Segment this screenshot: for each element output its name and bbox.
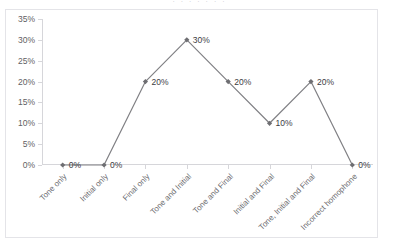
y-axis-tick-label: 20% [18, 77, 35, 87]
y-axis-tick-mark [38, 165, 42, 166]
data-point-label: 20% [317, 77, 334, 87]
data-point-marker [101, 162, 106, 167]
x-axis-tick-mark [187, 165, 188, 169]
chart-container: 35%30%25%20%15%10%5%0% 0%0%20%30%20%10%2… [5, 9, 378, 238]
data-point-label: 0% [358, 160, 370, 170]
x-axis-category-label-text: Tone and Final [191, 172, 234, 215]
data-point-label: 10% [276, 118, 293, 128]
x-axis-category-label-text: Initial only [79, 172, 111, 204]
data-point-label: 20% [234, 77, 251, 87]
data-point-label: 20% [151, 77, 168, 87]
series-markers [60, 37, 355, 167]
y-axis-tick-label: 25% [18, 56, 35, 66]
y-axis-tick-label: 10% [18, 118, 35, 128]
data-point-label: 30% [193, 35, 210, 45]
x-axis-tick-mark [270, 165, 271, 169]
y-axis-tick-label: 15% [18, 97, 35, 107]
y-axis-tick-label: 30% [18, 35, 35, 45]
x-axis-tick-mark [145, 165, 146, 169]
plot-area: 35%30%25%20%15%10%5%0% 0%0%20%30%20%10%2… [42, 19, 373, 165]
x-axis-tick-mark [228, 165, 229, 169]
cut-off-title-sliver: · · · · · · · [0, 0, 399, 8]
x-axis-category-label-text: Initial and Final [232, 172, 276, 216]
data-point-label: 0% [69, 160, 81, 170]
y-axis-tick-label: 0% [23, 160, 35, 170]
series-polyline [63, 40, 353, 165]
y-axis-tick-label: 35% [18, 14, 35, 24]
y-axis-tick-label: 5% [23, 139, 35, 149]
x-axis-category-label-text: Tone only [38, 172, 69, 203]
data-point-marker [350, 162, 355, 167]
data-point-label: 0% [110, 160, 122, 170]
x-axis-category-label-text: Final only [121, 172, 152, 203]
data-point-marker [60, 162, 65, 167]
x-axis-tick-mark [311, 165, 312, 169]
x-axis-category-label-text: Tone and Initial [149, 172, 193, 216]
